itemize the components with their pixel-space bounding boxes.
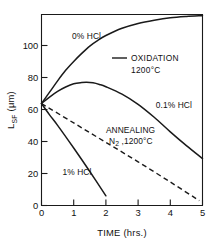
x-tick-label-0: 0 [39,207,44,218]
x-tick-label-1: 1 [71,207,76,218]
y-tick-label-20: 20 [28,168,38,179]
chart-figure: 0 20 40 60 80 100 0 1 2 3 4 5 TIME (hrs.… [0,0,215,249]
curve-annealing-n2 [42,104,200,201]
annotation-0.1-percent-hcl: 0.1% HCl [156,100,192,110]
y-axis-ticks [42,46,48,206]
y-tick-label-80: 80 [28,72,38,83]
annotation-1-percent-hcl: 1% HCl [62,167,91,177]
x-axis-tick-labels: 0 1 2 3 4 5 [39,207,205,218]
x-tick-label-4: 4 [168,207,173,218]
legend: OXIDATION 1200°C [112,53,179,74]
annotation-annealing-conditions: N2 ,1200°C [109,136,153,147]
y-axis-title: LSF (μm) [5,91,18,129]
annotation-annealing: ANNEALING [106,125,155,135]
legend-label-oxidation-line2: 1200°C [131,65,161,75]
svg-text:LSF (μm): LSF (μm) [5,91,18,129]
curve-0.1-percent-hcl [42,82,203,158]
y-axis-title-unit: (μm) [5,91,16,114]
y-tick-label-100: 100 [23,40,38,51]
y-axis-title-subscript: SF [11,114,18,123]
curve-1-percent-hcl [42,104,106,196]
y-axis-tick-labels: 0 20 40 60 80 100 [23,40,38,211]
x-axis-title: TIME (hrs.) [97,227,147,238]
legend-label-oxidation-line1: OXIDATION [131,53,179,63]
annotation-0-percent-hcl: 0% HCl [72,31,101,41]
y-tick-label-60: 60 [28,104,38,115]
x-tick-label-3: 3 [136,207,141,218]
x-tick-label-5: 5 [200,207,205,218]
y-tick-label-40: 40 [28,136,38,147]
chart-svg: 0 20 40 60 80 100 0 1 2 3 4 5 TIME (hrs.… [0,0,215,249]
x-tick-label-2: 2 [103,207,108,218]
y-tick-label-0: 0 [33,200,38,211]
x-axis-ticks [42,200,203,206]
